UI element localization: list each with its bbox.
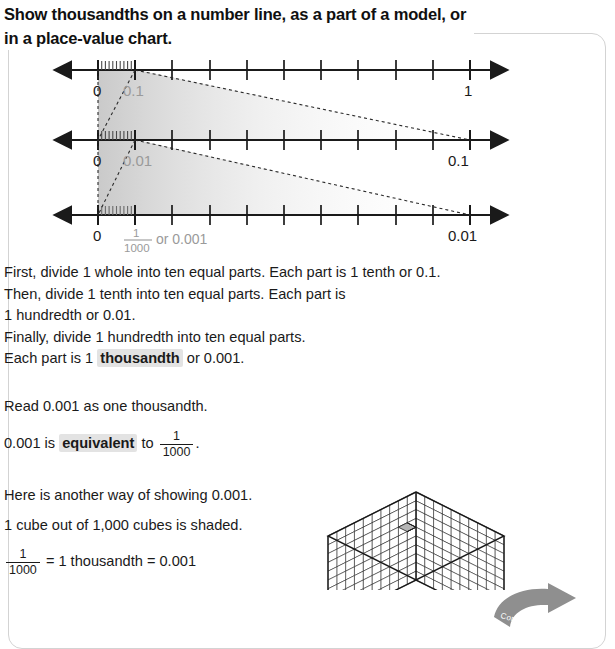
line3-segment-fraction: 1 1000 or 0.001: [124, 227, 208, 254]
svg-text:or 0.001: or 0.001: [156, 231, 208, 247]
final-equation-rest: = 1 thousandth = 0.001: [46, 553, 196, 569]
final-fraction-numerator: 1: [6, 548, 40, 561]
line2-end-label: 0.1: [448, 152, 469, 169]
svg-text:1000: 1000: [124, 242, 150, 254]
step-line-3: 1 hundredth or 0.01.: [4, 305, 440, 327]
final-fraction: 11000: [6, 548, 40, 577]
step-last-suffix: or 0.001.: [183, 350, 245, 366]
step-line-2: Then, divide 1 tenth into ten equal part…: [4, 284, 440, 306]
number-line-diagram: 0 0.1 1 0 0.01 0.1 0 0.01 1 1000 or 0.00…: [0, 48, 615, 258]
line3-end-label: 0.01: [448, 227, 477, 244]
equiv-middle: to: [137, 435, 157, 451]
keyword-thousandth: thousandth: [97, 349, 182, 367]
fraction-numerator: 1: [160, 430, 194, 443]
final-equation: 11000 = 1 thousandth = 0.001: [4, 548, 196, 577]
thousand-cube-model: [320, 440, 510, 590]
step-line-5: Each part is 1 thousandth or 0.001.: [4, 348, 440, 370]
step-line-1: First, divide 1 whole into ten equal par…: [4, 262, 440, 284]
funnel-shade-2: [98, 140, 470, 215]
page-title: Show thousandths on a number line, as a …: [4, 2, 474, 50]
line3-zero-label: 0: [93, 227, 101, 244]
cube-svg: [320, 440, 510, 590]
step-line-4: Finally, divide 1 hundredth into ten equ…: [4, 327, 440, 349]
continued-arrow: Continued on next page: [488, 583, 614, 645]
svg-text:1: 1: [133, 227, 139, 239]
fraction-one-thousandth: 11000: [160, 430, 194, 459]
final-fraction-denominator: 1000: [6, 564, 40, 577]
explanation-steps: First, divide 1 whole into ten equal par…: [4, 262, 440, 370]
line1-end-label: 1: [464, 82, 472, 99]
cube-statement: 1 cube out of 1,000 cubes is shaded.: [4, 515, 243, 537]
read-statement: Read 0.001 as one thousandth.: [4, 396, 208, 418]
line1-zero-label: 0: [93, 82, 101, 99]
funnel-shade-1: [98, 70, 470, 140]
line2-zero-label: 0: [93, 152, 101, 169]
line2-segment-label: 0.01: [123, 152, 152, 169]
equiv-prefix: 0.001 is: [4, 435, 59, 451]
keyword-equivalent: equivalent: [59, 434, 137, 452]
equivalence-statement: 0.001 is equivalent to 11000.: [4, 430, 200, 459]
equiv-suffix: .: [195, 435, 199, 451]
fraction-denominator: 1000: [160, 446, 194, 459]
step-last-prefix: Each part is 1: [4, 350, 97, 366]
another-way-statement: Here is another way of showing 0.001.: [4, 485, 252, 507]
line1-segment-label: 0.1: [123, 82, 144, 99]
